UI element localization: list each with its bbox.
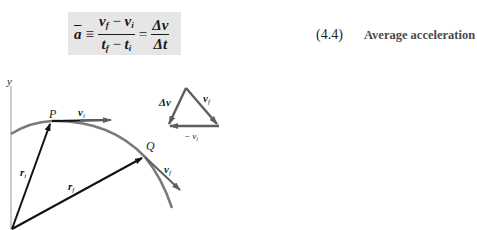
motion-diagram: y P Q ri rf vi vf Δv vf − vi xyxy=(0,0,477,230)
vf-label: vf xyxy=(164,163,172,177)
triangle-neg-vi-label: − vi xyxy=(184,131,198,142)
point-q-label: Q xyxy=(146,139,155,153)
velocity-difference-triangle: Δv vf − vi xyxy=(158,88,219,142)
delta-v-label: Δv xyxy=(158,96,171,108)
position-vector-rf xyxy=(12,158,142,229)
point-p-label: P xyxy=(48,107,57,121)
triangle-delta-v-vector xyxy=(169,88,186,124)
triangle-vf-vector xyxy=(186,88,217,124)
y-axis-label: y xyxy=(6,75,12,87)
triangle-vf-label: vf xyxy=(203,92,211,106)
vi-label: vi xyxy=(78,106,85,120)
velocity-vector-vi xyxy=(80,120,111,121)
position-vector-ri xyxy=(12,124,50,229)
ri-label: ri xyxy=(20,166,26,180)
rf-label: rf xyxy=(68,180,75,194)
